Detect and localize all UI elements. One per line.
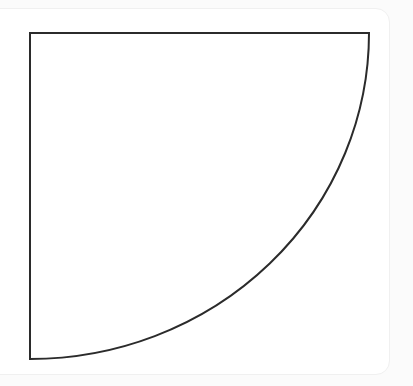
figure-canvas	[0, 0, 413, 386]
quarter-ellipse-region-outline	[30, 33, 369, 359]
figure-root	[0, 0, 413, 386]
